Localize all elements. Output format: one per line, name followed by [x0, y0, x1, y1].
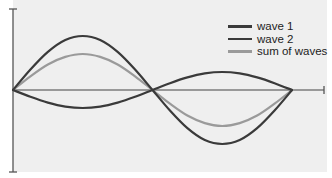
- legend-swatch-wave-2: [228, 38, 252, 41]
- legend-label-sum-of-waves: sum of waves: [257, 45, 327, 57]
- legend-item-wave-2: wave 2: [228, 33, 327, 46]
- legend-swatch-wave-1: [228, 25, 252, 28]
- legend-item-wave-1: wave 1: [228, 20, 327, 33]
- legend-swatch-sum-of-waves: [228, 50, 252, 53]
- legend-label-wave-2: wave 2: [257, 33, 293, 45]
- legend-label-wave-1: wave 1: [257, 20, 293, 32]
- legend: wave 1 wave 2 sum of waves: [228, 20, 327, 58]
- legend-item-sum-of-waves: sum of waves: [228, 45, 327, 58]
